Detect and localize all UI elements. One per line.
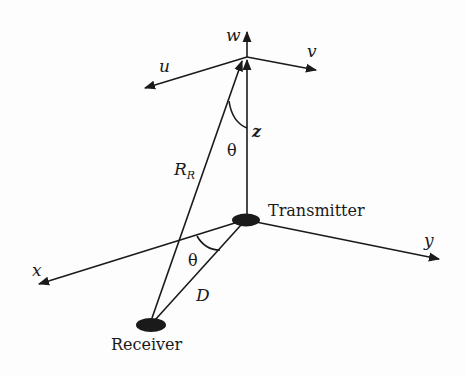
geometry-drawing [0, 0, 465, 377]
y-axis [256, 222, 439, 259]
r-label-main: R [174, 159, 187, 179]
d-label: D [196, 287, 210, 304]
v-axis [247, 57, 316, 70]
upper-theta-arc [229, 101, 247, 128]
x-axis [39, 222, 238, 284]
receiver-label: Receiver [111, 337, 182, 353]
receiver-antenna-icon [136, 318, 166, 332]
y-label: y [424, 232, 434, 249]
upper-theta-label: θ [227, 143, 237, 159]
r-label-subscript: R [187, 169, 195, 182]
w-label: w [226, 27, 241, 44]
z-label: z [252, 124, 261, 140]
lower-theta-arc [197, 236, 220, 250]
r-r-line [152, 61, 242, 318]
r-r-label: RR [174, 161, 195, 178]
x-label: x [32, 262, 42, 279]
diagram-canvas: w u v z θ RR Transmitter y x θ D Receive… [0, 0, 465, 377]
lower-theta-label: θ [188, 253, 198, 269]
u-label: u [159, 58, 170, 75]
transmitter-label: Transmitter [268, 203, 365, 219]
v-label: v [307, 43, 317, 60]
transmitter-antenna-icon [232, 214, 260, 227]
